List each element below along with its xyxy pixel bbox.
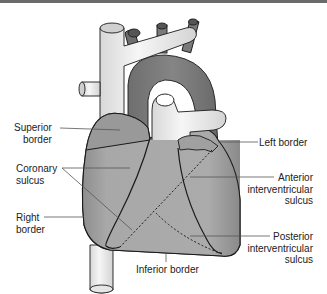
label-line: sulcus — [247, 195, 313, 207]
label-line: sulcus — [16, 175, 57, 187]
label-line: Posterior — [247, 231, 313, 243]
label-coronary-sulcus: Coronary sulcus — [16, 163, 57, 186]
label-line: Superior — [14, 122, 52, 134]
label-left-border: Left border — [259, 137, 307, 149]
label-right-border: Right border — [16, 212, 45, 235]
label-line: Right — [16, 212, 45, 224]
label-line: Coronary — [16, 163, 57, 175]
label-line: border — [16, 224, 45, 236]
label-line: sulcus — [247, 254, 313, 266]
label-posterior-interventricular-sulcus: Posterior interventricular sulcus — [247, 231, 313, 266]
inferior-vena-cava — [90, 245, 113, 293]
label-line: interventricular — [247, 243, 313, 255]
label-superior-border: Superior border — [14, 122, 52, 145]
label-line: Inferior border — [136, 264, 199, 275]
label-line: Anterior — [247, 172, 313, 184]
label-line: border — [14, 134, 52, 146]
label-inferior-border: Inferior border — [136, 264, 199, 276]
label-line: Left border — [259, 137, 307, 148]
heart-diagram: Superior border Coronary sulcus Right bo… — [0, 0, 327, 294]
label-line: interventricular — [247, 184, 313, 196]
label-anterior-interventricular-sulcus: Anterior interventricular sulcus — [247, 172, 313, 207]
